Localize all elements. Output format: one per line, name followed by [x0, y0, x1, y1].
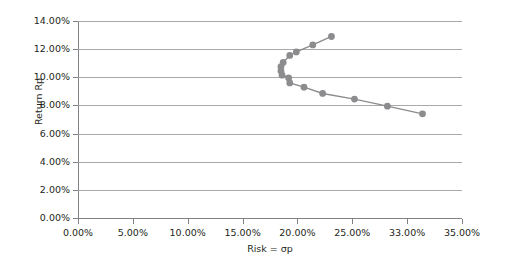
series-markers	[278, 33, 426, 117]
x-tick-5.00%	[133, 219, 134, 224]
y-tick-label-12.00%: 12.00%	[4, 44, 70, 54]
data-point-12	[351, 96, 358, 103]
y-tick-label-0.00%: 0.00%	[4, 213, 70, 223]
efficient-frontier-chart: Return Rp 0.00%2.00%4.00%6.00%8.00%10.00…	[0, 0, 506, 270]
data-point-13	[384, 103, 391, 110]
x-tick-15.00%	[243, 219, 244, 224]
x-axis-title: Risk = σp	[78, 243, 462, 254]
x-tick-label-35.00%: 35.00%	[422, 227, 502, 238]
y-tick-label-2.00%: 2.00%	[4, 185, 70, 195]
data-point-3	[286, 52, 293, 59]
y-tick-label-6.00%: 6.00%	[4, 129, 70, 139]
gridline-y-0.00%	[78, 218, 462, 219]
x-tick-35.00%	[462, 219, 463, 224]
x-tick-33.00%	[407, 219, 408, 224]
y-tick-label-10.00%: 10.00%	[4, 72, 70, 82]
plot-area	[78, 21, 462, 218]
x-tick-10.00%	[188, 219, 189, 224]
data-point-1	[309, 42, 316, 49]
data-point-0	[328, 33, 335, 40]
data-point-9	[286, 80, 293, 87]
data-point-11	[319, 90, 326, 97]
series-line-efficient-frontier	[281, 36, 423, 113]
data-point-10	[301, 84, 308, 91]
x-tick-0.00%	[78, 219, 79, 224]
data-point-7	[279, 72, 286, 79]
series-layer	[78, 21, 462, 218]
y-tick-label-8.00%: 8.00%	[4, 100, 70, 110]
x-tick-20.00%	[297, 219, 298, 224]
data-point-2	[293, 49, 300, 56]
y-tick-label-14.00%: 14.00%	[4, 16, 70, 26]
x-tick-25.00%	[352, 219, 353, 224]
y-tick-label-4.00%: 4.00%	[4, 157, 70, 167]
data-point-14	[419, 110, 426, 117]
